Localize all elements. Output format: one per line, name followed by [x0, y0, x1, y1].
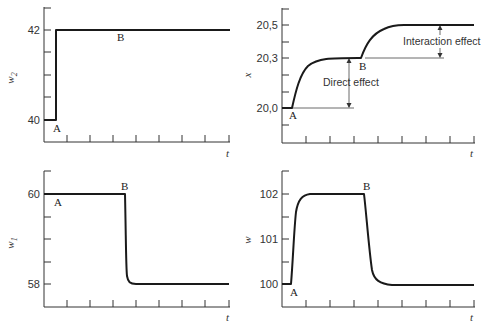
point-b: B: [117, 31, 124, 43]
y-tick-102: 102: [260, 188, 278, 200]
point-a: A: [289, 109, 297, 121]
point-b: B: [359, 60, 366, 72]
x-axis-title: t: [226, 147, 230, 159]
x-axis-title: t: [226, 311, 230, 323]
y-tick-20-5: 20,5: [257, 19, 278, 31]
svg-text:w2: w2: [4, 72, 19, 83]
x-ticks: [306, 136, 474, 143]
y-axis-title: w1: [4, 237, 19, 248]
y-tick-20-3: 20,3: [257, 52, 278, 64]
y-tick-40: 40: [28, 114, 40, 126]
y-tick-100: 100: [260, 278, 278, 290]
interaction-effect-label: Interaction effect: [403, 35, 481, 47]
point-a: A: [54, 196, 62, 208]
panel-w2: 42 40 w2 t A B: [4, 7, 230, 159]
y-tick-60: 60: [28, 188, 40, 200]
y-ticks: [282, 171, 289, 284]
y-axis-title: x: [241, 72, 253, 78]
y-axis-title: w2: [4, 72, 19, 83]
y-axis-title: w: [241, 236, 253, 244]
x-axis-title: t: [470, 147, 474, 159]
point-b: B: [121, 180, 128, 192]
svg-text:w1: w1: [4, 237, 19, 248]
panel-w: 102 101 100 w t A B: [241, 171, 475, 323]
x-ticks: [67, 135, 229, 142]
y-tick-58: 58: [28, 278, 40, 290]
w-curve: [282, 194, 474, 285]
y-ticks: [44, 8, 51, 120]
y-axis: [44, 7, 230, 142]
y-tick-101: 101: [260, 233, 278, 245]
y-tick-42: 42: [28, 24, 40, 36]
direct-effect-label: Direct effect: [323, 76, 379, 88]
point-a: A: [290, 286, 298, 298]
w2-curve: [44, 30, 230, 120]
x-ticks: [306, 300, 474, 307]
point-a: A: [53, 122, 61, 134]
y-axis: [282, 171, 475, 307]
y-tick-20-0: 20,0: [257, 102, 278, 114]
panel-x: 20,5 20,3 20,0 x t Direct effect Interac…: [241, 8, 481, 159]
point-b: B: [363, 180, 370, 192]
y-ticks: [44, 171, 51, 284]
x-ticks: [67, 300, 229, 307]
x-axis-title: t: [470, 311, 474, 323]
panel-w1: 60 58 w1 t A B: [4, 171, 230, 323]
w1-curve: [44, 194, 229, 284]
y-axis: [44, 171, 230, 307]
figure: 42 40 w2 t A B 20,5 20,3 20,0 x t Direct…: [0, 0, 485, 327]
